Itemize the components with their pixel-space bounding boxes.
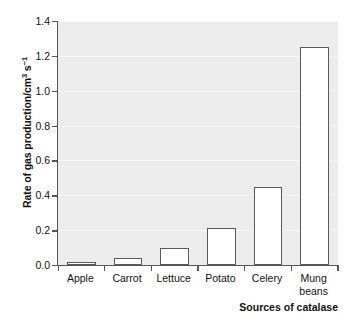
bar-carrot (114, 258, 143, 265)
y-axis-title-sup-cm: 3 (20, 74, 29, 78)
x-tick-label: Carrot (104, 272, 151, 285)
x-tick-mark (337, 265, 338, 271)
x-tick-mark (291, 265, 292, 271)
bar-mung-beans (300, 47, 329, 265)
y-tick-label: 0.0 (35, 259, 50, 271)
x-tick-label-line: Celery (244, 272, 291, 285)
y-axis-title-main: Rate of gas production/cm (21, 78, 33, 208)
y-axis-title-sup-s: −1 (20, 57, 29, 65)
x-tick-label: Potato (197, 272, 244, 285)
x-tick-mark (244, 265, 245, 271)
y-axis-title-mid: s (21, 65, 33, 74)
y-tick-label: 0.4 (35, 189, 50, 201)
x-tick-label-line: Carrot (104, 272, 151, 285)
bar-lettuce (160, 248, 189, 265)
y-tick-label: 1.2 (35, 50, 50, 62)
y-axis-title-text: Rate of gas production/cm3 s−1 (21, 57, 33, 208)
x-tick-mark (104, 265, 105, 271)
bar-apple (67, 262, 96, 265)
bars-group (58, 21, 338, 265)
x-tick-mark (197, 265, 198, 271)
bar-celery (254, 187, 283, 265)
x-tick-label: Celery (244, 272, 291, 285)
y-tick-label: 0.6 (35, 154, 50, 166)
x-tick-label-line: Potato (197, 272, 244, 285)
x-tick-label-line: Apple (57, 272, 104, 285)
plot-area: 0.00.20.40.60.81.01.21.4 (57, 21, 338, 266)
x-tick-mark (58, 265, 59, 271)
y-tick-label: 0.8 (35, 120, 50, 132)
y-tick-label: 1.4 (35, 15, 50, 27)
y-tick-label: 0.2 (35, 224, 50, 236)
x-tick-label: Apple (57, 272, 104, 285)
x-axis-title: Sources of catalase (57, 301, 342, 313)
y-tick-label: 1.0 (35, 85, 50, 97)
x-tick-mark (151, 265, 152, 271)
bar-potato (207, 228, 236, 265)
x-tick-label-line: Mung (290, 272, 337, 285)
x-tick-label: Lettuce (150, 272, 197, 285)
x-tick-label-line: Lettuce (150, 272, 197, 285)
x-tick-label: Mungbeans (290, 272, 337, 297)
chart-figure: Rate of gas production/cm3 s−1 0.00.20.4… (0, 0, 352, 323)
x-tick-label-line: beans (290, 285, 337, 298)
y-axis-title: Rate of gas production/cm3 s−1 (18, 0, 36, 265)
